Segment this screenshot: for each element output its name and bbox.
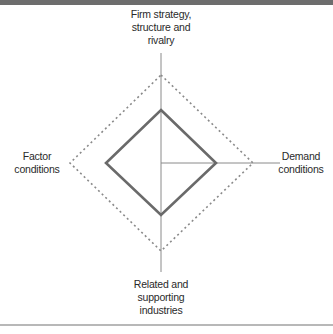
node-factor-conditions: Factor conditions: [4, 150, 70, 176]
label-line: rivalry: [111, 34, 211, 47]
label-line: Factor: [4, 150, 70, 163]
node-firm-strategy: Firm strategy, structure and rivalry: [111, 8, 211, 47]
node-related-industries: Related and supporting industries: [111, 278, 211, 317]
bottom-rule: [0, 324, 333, 326]
label-line: conditions: [268, 163, 333, 176]
label-line: Demand: [268, 150, 333, 163]
label-line: structure and: [111, 21, 211, 34]
label-line: Related and: [111, 278, 211, 291]
label-line: conditions: [4, 163, 70, 176]
node-demand-conditions: Demand conditions: [268, 150, 333, 176]
label-line: Firm strategy,: [111, 8, 211, 21]
label-line: industries: [111, 304, 211, 317]
label-line: supporting: [111, 291, 211, 304]
